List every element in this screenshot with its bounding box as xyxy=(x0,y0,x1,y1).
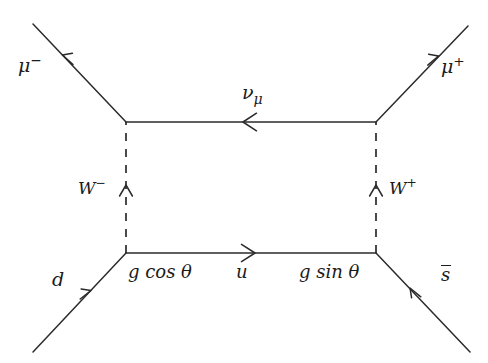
label-down-quark: d xyxy=(52,270,64,289)
label-muon-minus-symbol: μ xyxy=(18,54,30,76)
label-anti-strange-symbol: s xyxy=(441,265,450,284)
label-neutrino-symbol: ν xyxy=(242,81,254,103)
label-muon-plus-charge: + xyxy=(453,53,464,69)
anti-strange-arrowhead xyxy=(410,288,421,298)
label-muon-plus: μ+ xyxy=(441,57,465,76)
feynman-diagram: μ− μ+ νμ W− W+ d g cos θ u g sin θ s xyxy=(0,0,488,363)
label-muon-minus: μ− xyxy=(18,56,42,75)
label-anti-strange-quark: s xyxy=(441,265,450,284)
label-neutrino: νμ xyxy=(242,83,263,102)
label-coupling-right: g sin θ xyxy=(299,263,359,281)
label-w-minus-symbol: W xyxy=(78,178,95,198)
label-w-plus-charge: + xyxy=(406,176,416,190)
label-w-minus: W− xyxy=(78,180,106,197)
down-quark-arrowhead xyxy=(80,289,91,299)
label-w-minus-charge: − xyxy=(95,176,105,190)
label-up-quark: u xyxy=(236,263,248,281)
label-w-plus: W+ xyxy=(389,180,417,197)
muon-minus-leg xyxy=(33,24,126,122)
label-w-plus-symbol: W xyxy=(389,178,406,198)
anti-strange-leg xyxy=(376,253,470,352)
muon-plus-arrowhead xyxy=(428,54,439,65)
label-muon-minus-charge: − xyxy=(30,52,41,68)
label-coupling-left: g cos θ xyxy=(128,263,192,281)
muon-minus-arrowhead xyxy=(63,53,74,64)
down-quark-leg xyxy=(33,253,126,352)
label-neutrino-subscript: μ xyxy=(254,91,263,107)
label-muon-plus-symbol: μ xyxy=(441,55,453,77)
